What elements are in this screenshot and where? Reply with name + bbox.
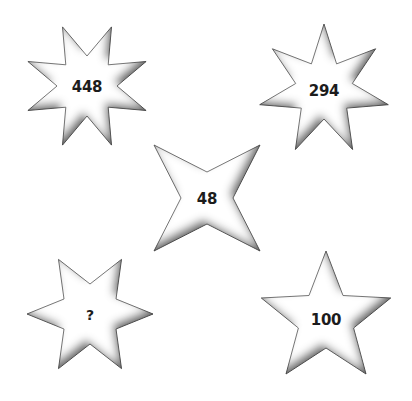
stars-canvas: [0, 0, 412, 401]
star-4-shape: [154, 145, 260, 251]
star-puzzle: 448 294 48 ? 100: [0, 0, 412, 401]
star-7-shape: [260, 24, 389, 150]
star-5-shape: [261, 251, 390, 374]
star-6-shape: [27, 259, 153, 368]
star-8-shape: [28, 27, 146, 145]
